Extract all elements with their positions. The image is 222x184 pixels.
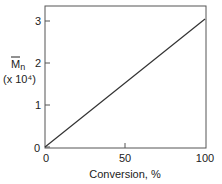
plot-frame	[45, 6, 206, 148]
y-tick-label-1: 1	[35, 99, 41, 111]
x-tick-label-0: 0	[43, 152, 49, 164]
y-axis-title-scale: (x 10⁴)	[3, 73, 36, 85]
x-axis-title: Conversion, %	[89, 168, 161, 180]
y-tick-label-3: 3	[35, 15, 41, 27]
y-tick-label-2: 2	[35, 57, 41, 69]
y-axis-title-main: Mn	[11, 58, 25, 72]
data-line	[45, 19, 205, 147]
y-ticks	[45, 21, 50, 147]
x-tick-label-50: 50	[119, 152, 131, 164]
x-tick-label-100: 100	[196, 152, 214, 164]
chart: 0 1 2 3 0 50 100 Conversion, % Mn (x 10⁴…	[0, 0, 222, 184]
y-tick-label-0: 0	[34, 142, 40, 154]
y-axis-title: Mn (x 10⁴)	[3, 57, 36, 85]
y-axis-title-subscript: n	[20, 62, 25, 72]
